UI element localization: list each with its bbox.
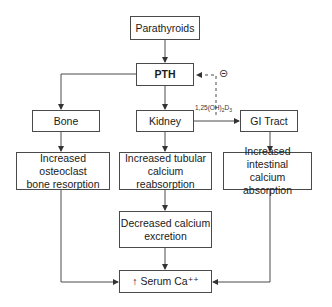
tubular-reabsorption-node: Increased tubular calcium reabsorption	[119, 152, 212, 190]
inhibition-icon: ⊝	[219, 67, 228, 80]
bone-resorption-node: Increased osteoclast bone resorption	[16, 152, 110, 190]
kidney-node: Kidney	[136, 110, 194, 132]
gi-tract-label: GI Tract	[250, 115, 287, 128]
gi-tract-node: GI Tract	[240, 110, 298, 132]
intestinal-absorption-node: Increased intestinal calcium absorption	[223, 152, 312, 190]
pth-label: PTH	[155, 68, 176, 81]
excretion-line1: Decreased calcium	[121, 217, 210, 230]
bone-effect-line1: Increased osteoclast	[17, 152, 109, 178]
bone-label: Bone	[54, 115, 79, 128]
parathyroids-node: Parathyroids	[130, 16, 200, 40]
parathyroids-label: Parathyroids	[136, 22, 195, 35]
kidney-effect-line1: Increased tubular	[125, 152, 206, 165]
serum-calcium-label: ↑ Serum Ca⁺⁺	[132, 275, 199, 288]
excretion-line2: excretion	[144, 230, 187, 243]
serum-calcium-node: ↑ Serum Ca⁺⁺	[119, 270, 212, 293]
gi-effect-line2: calcium absorption	[224, 171, 311, 197]
bone-node: Bone	[32, 110, 100, 132]
gi-effect-line1: Increased intestinal	[224, 145, 311, 171]
kidney-effect-line2: calcium reabsorption	[120, 165, 211, 191]
decreased-excretion-node: Decreased calcium excretion	[119, 211, 212, 248]
kidney-label: Kidney	[149, 115, 181, 128]
vitamin-d-label: 1,25(OH)2D3	[195, 104, 232, 113]
bone-effect-line2: bone resorption	[27, 178, 100, 191]
pth-node: PTH	[136, 63, 194, 86]
